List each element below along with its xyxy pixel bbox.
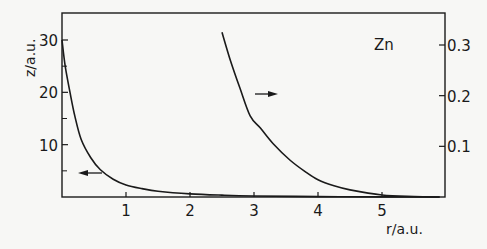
right-arrow-icon bbox=[268, 91, 278, 97]
x-tick-label: 3 bbox=[249, 202, 259, 220]
y-right-tick-label: 0.1 bbox=[447, 138, 471, 156]
axis-ticks bbox=[62, 40, 445, 197]
x-tick-label: 5 bbox=[377, 202, 387, 220]
x-tick-label: 1 bbox=[121, 202, 131, 220]
y-right-tick-label: 0.3 bbox=[447, 37, 471, 55]
x-axis-label: r/a.u. bbox=[386, 221, 423, 237]
curve-right bbox=[222, 32, 440, 197]
y-right-tick-label: 0.2 bbox=[447, 88, 471, 106]
tick-labels: 123451020300.10.20.3 bbox=[39, 32, 471, 220]
y-left-tick-label: 10 bbox=[39, 137, 58, 155]
element-annotation: Zn bbox=[374, 36, 394, 54]
chart: 123451020300.10.20.3 Zn r/a.u. z/a.u. bbox=[0, 0, 487, 249]
y-axis-label-left: z/a.u. bbox=[22, 39, 38, 77]
data-curves bbox=[62, 32, 440, 197]
x-tick-label: 4 bbox=[313, 202, 323, 220]
left-arrow-icon bbox=[78, 170, 88, 176]
y-left-tick-label: 20 bbox=[39, 84, 58, 102]
axis-arrows bbox=[78, 91, 278, 176]
x-tick-label: 2 bbox=[185, 202, 195, 220]
y-left-tick-label: 30 bbox=[39, 32, 58, 50]
